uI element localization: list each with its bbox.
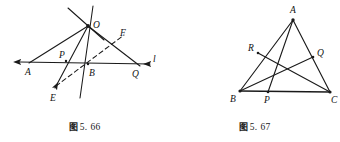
caption-number: 5. 66 (80, 122, 101, 132)
cevian-AP (268, 20, 293, 92)
point-label-Q: Q (317, 48, 324, 58)
point-label-P: P (58, 50, 65, 60)
side-BC (240, 91, 330, 92)
figure-sheet: O A P B Q E F l 图5. 66 (0, 0, 340, 142)
figure-5-67-drawing: A B C R Q P (170, 0, 340, 118)
vertex-dot-O (86, 24, 90, 28)
point-label-B: B (230, 94, 236, 104)
caption-number: 5. 67 (250, 122, 271, 132)
figure-5-66-panel: O A P B Q E F l 图5. 66 (0, 0, 170, 142)
caption-label-zh: 图 (239, 122, 248, 132)
point-label-P: P (263, 95, 270, 105)
point-label-A: A (24, 67, 31, 77)
point-label-A: A (289, 5, 296, 15)
point-label-B: B (89, 68, 95, 78)
vertex-dot-B (87, 63, 89, 65)
vertex-dot-C (328, 90, 331, 93)
point-label-F: F (119, 28, 126, 38)
figure-5-67-caption: 图5. 67 (170, 120, 340, 133)
point-label-E: E (49, 93, 56, 103)
vertex-dot-P (65, 60, 67, 62)
cevian-CR (258, 53, 330, 92)
vertex-dot-B (238, 89, 241, 92)
figure-5-66-caption: 图5. 66 (0, 120, 170, 133)
point-label-R: R (247, 43, 254, 53)
cevian-BQ (240, 57, 313, 91)
point-label-C: C (331, 95, 338, 105)
figure-5-67-panel: A B C R Q P 图5. 67 (170, 0, 340, 142)
vertex-dot-P (267, 91, 270, 94)
point-label-l: l (153, 54, 156, 64)
point-label-O: O (93, 20, 100, 30)
ray-OQ-through-F (88, 26, 140, 66)
point-label-Q: Q (132, 69, 139, 79)
caption-label-zh: 图 (69, 122, 78, 132)
vertex-dot-Q (312, 56, 315, 59)
side-AC (293, 20, 330, 92)
side-AB (240, 20, 293, 91)
vertex-dot-R (257, 52, 260, 55)
vertex-dot-A (291, 18, 294, 21)
figure-5-66-drawing: O A P B Q E F l (0, 0, 170, 118)
